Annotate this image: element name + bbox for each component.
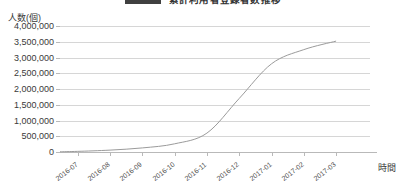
chart-title-row: 累計利用者登録者数推移 bbox=[0, 0, 406, 5]
y-tick-label: 2,000,000 bbox=[0, 84, 54, 94]
x-tick-mark bbox=[110, 152, 111, 156]
x-tick-mark bbox=[78, 152, 79, 156]
x-tick-label: 2016-11 bbox=[183, 161, 207, 182]
y-tick-label: 3,500,000 bbox=[0, 37, 54, 47]
x-tick-mark bbox=[336, 152, 337, 156]
y-tick-mark bbox=[56, 73, 60, 74]
y-tick-label: 0 bbox=[0, 147, 54, 157]
y-tick-label: 1,000,000 bbox=[0, 116, 54, 126]
y-tick-mark bbox=[56, 136, 60, 137]
x-tick-label: 2016-07 bbox=[54, 161, 79, 182]
x-tick-label: 2017-01 bbox=[248, 161, 273, 182]
legend-swatch bbox=[125, 0, 161, 4]
y-tick-label: 500,000 bbox=[0, 131, 54, 141]
x-tick-label: 2016-08 bbox=[86, 161, 111, 182]
y-tick-mark bbox=[56, 89, 60, 90]
y-tick-mark bbox=[56, 105, 60, 106]
x-tick-label: 2016-10 bbox=[151, 161, 176, 182]
y-tick-label: 1,500,000 bbox=[0, 100, 54, 110]
x-tick-mark bbox=[207, 152, 208, 156]
y-tick-label: 4,000,000 bbox=[0, 21, 54, 31]
page-title: 累計利用者登録者数推移 bbox=[169, 0, 281, 5]
x-tick-mark bbox=[272, 152, 273, 156]
x-tick-mark bbox=[175, 152, 176, 156]
x-axis-caption: 時間 bbox=[378, 161, 396, 174]
y-tick-mark bbox=[56, 42, 60, 43]
y-tick-mark bbox=[56, 26, 60, 27]
y-tick-mark bbox=[56, 152, 60, 153]
plot-area bbox=[60, 26, 370, 152]
x-tick-mark bbox=[239, 152, 240, 156]
x-tick-label: 2016-12 bbox=[216, 161, 241, 182]
x-tick-label: 2016-09 bbox=[119, 161, 144, 182]
x-tick-mark bbox=[142, 152, 143, 156]
x-tick-label: 2017-03 bbox=[312, 161, 337, 182]
y-tick-label: 3,000,000 bbox=[0, 53, 54, 63]
y-tick-label: 2,500,000 bbox=[0, 68, 54, 78]
x-axis-line bbox=[60, 152, 377, 153]
x-tick-mark bbox=[304, 152, 305, 156]
y-tick-mark bbox=[56, 58, 60, 59]
x-tick-label: 2017-02 bbox=[280, 161, 305, 182]
series-line-cumulative-users bbox=[60, 26, 370, 152]
y-tick-mark bbox=[56, 121, 60, 122]
